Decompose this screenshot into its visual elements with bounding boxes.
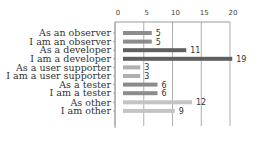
data-label: 3 [144, 72, 149, 81]
category-labels: As an observerI am an observerAs a devel… [6, 27, 111, 116]
x-axis-ticks: 05101520 [116, 9, 238, 17]
data-label: 11 [190, 46, 200, 55]
data-label: 9 [179, 107, 184, 116]
bar [123, 57, 232, 61]
bar [123, 31, 152, 35]
data-label: 19 [236, 55, 246, 64]
bar [123, 109, 175, 113]
x-tick-label: 5 [145, 9, 149, 17]
bar [123, 74, 140, 78]
bar [123, 91, 158, 95]
bar [123, 65, 140, 69]
x-tick-label: 0 [116, 9, 120, 17]
category-label: I am other [61, 105, 112, 116]
bars [123, 31, 232, 113]
bar [123, 48, 186, 52]
bar-chart: 05101520 As an observerI am an observerA… [0, 0, 268, 143]
data-label: 12 [196, 98, 206, 107]
x-tick-label: 15 [200, 9, 209, 17]
x-tick-label: 10 [171, 9, 180, 17]
data-label: 5 [156, 38, 161, 47]
data-label: 6 [162, 89, 167, 98]
bar [123, 83, 158, 87]
bar [123, 40, 152, 44]
x-tick-label: 20 [229, 9, 238, 17]
bar [123, 100, 192, 104]
